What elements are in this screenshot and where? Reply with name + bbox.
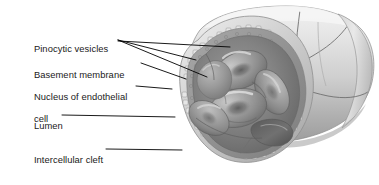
label-intercellular-cleft: Intercellular cleft	[18, 143, 103, 176]
label-nucleus-line1: Nucleus of endothelial	[34, 91, 127, 102]
label-layer: Pinocytic vesicles Basement membrane Nuc…	[0, 0, 379, 185]
label-lumen: Lumen	[18, 109, 63, 142]
label-lumen-text: Lumen	[34, 120, 63, 131]
label-intercellular-cleft-text: Intercellular cleft	[34, 154, 103, 165]
capillary-diagram-figure: Pinocytic vesicles Basement membrane Nuc…	[0, 0, 379, 185]
label-pinocytic-vesicles-text: Pinocytic vesicles	[34, 43, 108, 54]
label-basement-membrane-text: Basement membrane	[34, 69, 124, 80]
